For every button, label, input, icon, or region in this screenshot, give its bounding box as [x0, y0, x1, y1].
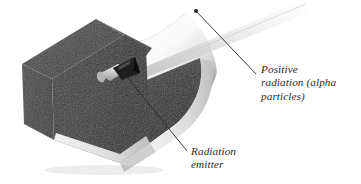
box-cast-shadow	[44, 165, 164, 175]
callout-radiation-emitter-line-1: Radiation	[191, 145, 236, 158]
callout-radiation-emitter-line-2: emitter	[191, 158, 236, 171]
callout-positive-radiation-line-3: particles)	[261, 90, 336, 103]
emitter-aperture	[135, 64, 138, 67]
callout-positive-radiation-line-1: Positive	[261, 63, 336, 76]
cast-shadow-ellipse	[44, 165, 164, 175]
callout-positive-radiation-line-2: radiation (alpha	[261, 76, 336, 89]
radiation-emitter-figure: Positive radiation (alpha particles) Rad…	[0, 0, 361, 184]
callout-radiation-emitter: Radiation emitter	[191, 145, 236, 172]
callout-positive-radiation: Positive radiation (alpha particles)	[261, 63, 336, 103]
